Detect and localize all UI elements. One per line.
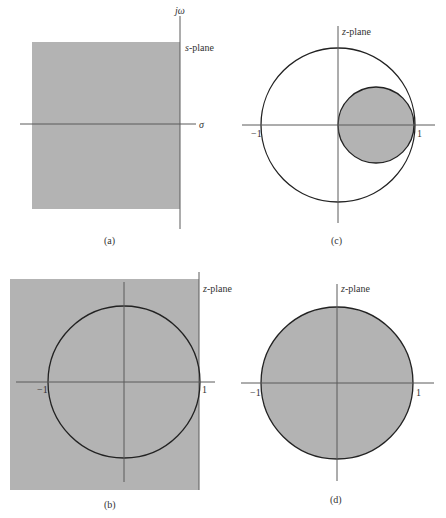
- z-plane-label: z-plane: [202, 283, 232, 294]
- jw-axis-label: jω: [173, 5, 185, 16]
- panel-a: jω s-plane σ (a): [20, 5, 214, 247]
- panel-b: z-plane −1 1 (b): [10, 272, 232, 511]
- plane-suffix: -plane: [346, 26, 372, 37]
- caption-c: (c): [331, 235, 342, 247]
- panel-d: z-plane −1 1 (d): [241, 283, 434, 506]
- tick-label-one: 1: [202, 384, 207, 395]
- s-plane-label: s-plane: [185, 42, 214, 53]
- figure-canvas: jω s-plane σ (a) z-plane −1 1 (c) z-plan…: [0, 0, 446, 518]
- panel-c: z-plane −1 1 (c): [242, 26, 435, 247]
- caption-b: (b): [104, 499, 116, 511]
- tick-label-neg-one: −1: [251, 128, 262, 139]
- z-plane-label: z-plane: [340, 283, 370, 294]
- caption-d: (d): [330, 494, 342, 506]
- plane-suffix: -plane: [207, 283, 233, 294]
- tick-label-one: 1: [416, 387, 421, 398]
- plane-suffix: -plane: [345, 283, 371, 294]
- shaded-left-half-plane: [32, 42, 180, 209]
- plane-suffix: -plane: [189, 42, 215, 53]
- tick-label-one: 1: [417, 128, 422, 139]
- caption-a: (a): [104, 235, 115, 247]
- sigma-axis-label: σ: [199, 119, 205, 130]
- z-plane-label: z-plane: [341, 26, 371, 37]
- tick-label-neg-one: −1: [250, 387, 261, 398]
- tick-label-neg-one: −1: [37, 384, 48, 395]
